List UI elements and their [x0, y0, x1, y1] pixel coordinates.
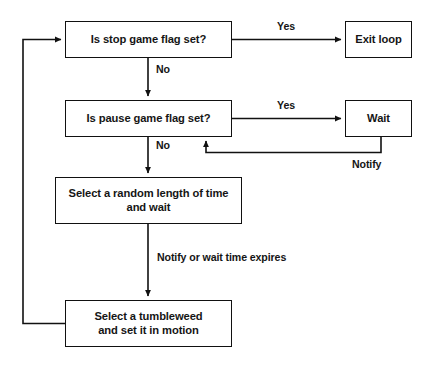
edge-label-pause-yes: Yes — [277, 99, 295, 111]
node-exit-loop-label: Exit loop — [351, 33, 405, 47]
node-wait[interactable]: Wait — [345, 100, 412, 137]
node-tumbleweed-label: Select a tumbleweed and set it in motion — [90, 310, 206, 337]
node-wait-label: Wait — [363, 112, 394, 126]
node-random-wait-label: Select a random length of time and wait — [65, 187, 233, 214]
edge-wait-notify — [206, 137, 381, 153]
flowchart-diagram: Is stop game flag set? Exit loop Is paus… — [0, 0, 432, 367]
node-pause-flag[interactable]: Is pause game flag set? — [65, 100, 232, 137]
node-random-wait[interactable]: Select a random length of time and wait — [55, 177, 242, 224]
edge-label-notify-or-expires: Notify or wait time expires — [157, 251, 286, 263]
node-stop-flag-label: Is stop game flag set? — [87, 33, 210, 47]
node-exit-loop[interactable]: Exit loop — [345, 21, 412, 58]
edge-label-notify: Notify — [352, 158, 381, 170]
edge-label-stop-yes: Yes — [277, 20, 295, 32]
node-pause-flag-label: Is pause game flag set? — [83, 112, 215, 126]
node-stop-flag[interactable]: Is stop game flag set? — [65, 21, 232, 58]
node-tumbleweed[interactable]: Select a tumbleweed and set it in motion — [65, 300, 232, 347]
edge-label-pause-no: No — [156, 139, 170, 151]
edge-label-stop-no: No — [156, 63, 170, 75]
